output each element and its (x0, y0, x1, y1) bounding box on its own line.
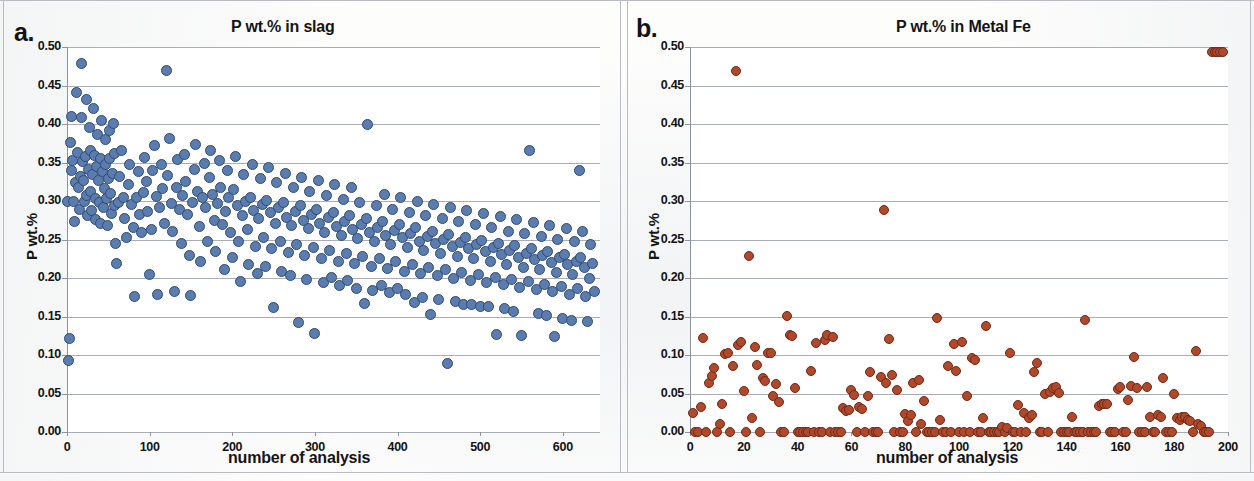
data-point (747, 413, 757, 423)
data-point (508, 306, 519, 317)
panel-a: a. P wt.% in slag P wt.% number of analy… (0, 0, 620, 481)
data-point (387, 204, 398, 215)
data-point (739, 386, 749, 396)
panel-a-title: P wt.% in slag (231, 18, 335, 36)
data-point (884, 334, 894, 344)
data-point (782, 311, 792, 321)
data-point (190, 139, 201, 150)
data-point (518, 262, 529, 273)
y-axis-tick-label: 0.45 (644, 78, 684, 92)
data-point (164, 133, 175, 144)
gridline-y (690, 47, 1228, 48)
data-point (324, 245, 335, 256)
gridline-y (67, 124, 600, 125)
data-point (736, 337, 746, 347)
x-axis-tick (232, 432, 233, 436)
gridline-y (690, 240, 1228, 241)
y-axis-tick-label: 0.25 (21, 232, 61, 246)
gridline-y (690, 124, 1228, 125)
x-axis-tick-label: 400 (373, 440, 423, 454)
x-axis-tick (563, 432, 564, 436)
data-point (144, 269, 155, 280)
data-point (1191, 346, 1201, 356)
data-point (295, 200, 306, 211)
data-point (1156, 412, 1166, 422)
data-point (394, 219, 405, 230)
data-point (108, 118, 119, 129)
data-point (437, 213, 448, 224)
data-point (154, 202, 165, 213)
data-point (404, 207, 415, 218)
data-point (303, 223, 314, 234)
panel-b-title: P wt.% in Metal Fe (896, 18, 1031, 36)
data-point (214, 155, 225, 166)
y-axis-tick-label: 0.15 (644, 309, 684, 323)
data-point (417, 292, 428, 303)
panel-b-plot-area (690, 47, 1228, 432)
data-point (280, 168, 291, 179)
y-axis-tick-label: 0.30 (644, 193, 684, 207)
y-axis-tick-label: 0.35 (644, 155, 684, 169)
data-point (260, 261, 271, 272)
data-point (275, 236, 286, 247)
data-point (873, 427, 883, 437)
data-point (1043, 427, 1053, 437)
data-point (1167, 427, 1177, 437)
data-point (898, 427, 908, 437)
data-point (478, 208, 489, 219)
gridline-y (67, 47, 600, 48)
data-point (359, 298, 370, 309)
x-axis-tick-label: 80 (880, 440, 930, 454)
data-point (407, 259, 418, 270)
data-point (485, 256, 496, 267)
data-point (146, 224, 157, 235)
data-point (328, 207, 339, 218)
data-point (123, 179, 134, 190)
gridline-y (67, 163, 600, 164)
data-point (1091, 427, 1101, 437)
data-point (589, 286, 600, 297)
data-point (182, 209, 193, 220)
data-point (336, 230, 347, 241)
data-point (179, 149, 190, 160)
panel-divider-left (620, 0, 621, 473)
data-point (750, 342, 760, 352)
y-axis-tick-label: 0.50 (644, 39, 684, 53)
data-point (857, 404, 867, 414)
gridline-y (690, 86, 1228, 87)
data-point (1102, 399, 1112, 409)
y-axis-tick-label: 0.05 (644, 386, 684, 400)
data-point (935, 415, 945, 425)
data-point (549, 331, 560, 342)
x-axis-tick-label: 20 (719, 440, 769, 454)
data-point (1032, 358, 1042, 368)
x-axis-tick-label: 60 (826, 440, 876, 454)
data-point (161, 65, 172, 76)
data-point (787, 331, 797, 341)
data-point (443, 229, 454, 240)
y-axis-tick-label: 0.50 (21, 39, 61, 53)
data-point (65, 137, 76, 148)
data-point (243, 259, 254, 270)
data-point (493, 238, 504, 249)
x-axis-tick (315, 432, 316, 436)
data-point (184, 250, 195, 261)
data-point (696, 402, 706, 412)
x-axis-tick-label: 100 (934, 440, 984, 454)
data-point (202, 236, 213, 247)
y-axis-line (690, 47, 691, 432)
data-point (361, 213, 372, 224)
gridline-y (690, 317, 1228, 318)
data-point (66, 111, 77, 122)
data-point (142, 206, 153, 217)
data-point (219, 264, 230, 275)
data-point (981, 321, 991, 331)
x-axis-tick (1228, 432, 1229, 436)
data-point (728, 361, 738, 371)
x-axis-tick-label: 160 (1095, 440, 1145, 454)
data-point (288, 182, 299, 193)
gridline-y (67, 317, 600, 318)
data-point (774, 397, 784, 407)
data-point (235, 276, 246, 287)
gridline-y (67, 394, 600, 395)
